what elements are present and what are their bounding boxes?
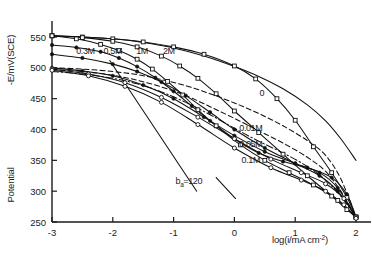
marker-filled-circle xyxy=(50,53,53,56)
curve-0.1M xyxy=(52,72,356,218)
marker-open-square xyxy=(166,80,170,84)
marker-open-circle xyxy=(232,137,236,141)
x-axis-title-close: ) xyxy=(325,234,328,245)
marker-open-square xyxy=(305,174,309,178)
marker-open-square xyxy=(275,97,279,101)
marker-open-square xyxy=(50,34,54,38)
marker-open-circle xyxy=(50,68,54,72)
marker-filled-circle xyxy=(330,176,333,179)
marker-open-square xyxy=(330,194,334,198)
marker-open-circle xyxy=(342,197,346,201)
marker-open-square xyxy=(74,37,78,41)
marker-filled-circle xyxy=(154,76,157,79)
curve-label-0.01M: 0.01M xyxy=(239,123,262,133)
marker-filled-circle xyxy=(294,162,297,165)
marker-open-circle xyxy=(324,189,328,193)
marker-open-square xyxy=(214,92,218,96)
marker-open-square xyxy=(287,171,291,175)
marker-filled-circle xyxy=(50,43,53,46)
curve-lines xyxy=(52,36,356,219)
marker-open-circle xyxy=(159,100,163,104)
curve-label-1M: 1M xyxy=(136,46,148,56)
curve-0.5M xyxy=(52,36,356,217)
curve-label-2M: 2M xyxy=(163,46,175,56)
marker-filled-circle xyxy=(142,83,145,86)
marker-open-square xyxy=(312,183,316,187)
marker-filled-circle xyxy=(172,90,175,93)
y-tick-label: 250 xyxy=(30,217,46,228)
marker-open-circle xyxy=(159,95,163,99)
marker-open-circle xyxy=(269,166,273,170)
marker-open-circle xyxy=(342,203,346,207)
marker-filled-circle xyxy=(135,70,138,73)
curve-0.01M xyxy=(52,68,356,217)
y-tick-label: 350 xyxy=(30,155,46,166)
y-axis-title-secondary: Potential xyxy=(5,167,16,202)
curve-label-0.3M: 0.3M xyxy=(76,46,94,56)
marker-open-circle xyxy=(354,216,358,220)
marker-open-circle xyxy=(123,84,127,88)
marker-filled-circle xyxy=(172,97,175,100)
y-tick-label: 300 xyxy=(30,186,46,197)
marker-open-circle xyxy=(299,178,303,182)
marker-filled-circle xyxy=(318,171,321,174)
marker-filled-circle xyxy=(257,151,260,154)
annotation-rest: =120 xyxy=(183,176,202,186)
x-tick-label: 0 xyxy=(232,227,237,238)
marker-open-circle xyxy=(196,115,200,119)
marker-filled-circle xyxy=(233,128,236,131)
curve-baseline-0.1M-lower xyxy=(52,54,356,217)
marker-open-circle xyxy=(299,171,303,175)
marker-open-square xyxy=(202,52,206,56)
marker-filled-circle xyxy=(263,146,266,149)
marker-open-square xyxy=(312,145,316,149)
y-tick-label: 400 xyxy=(30,124,46,135)
x-axis-title: log(i/mA cm-2) xyxy=(272,234,328,246)
marker-filled-circle xyxy=(336,186,339,189)
marker-filled-circle xyxy=(111,74,114,77)
marker-filled-circle xyxy=(208,111,211,114)
marker-open-square xyxy=(254,77,258,81)
marker-open-square xyxy=(135,57,139,61)
figure-container: 2M1M0.5M0.3M0.1M0.05M0.01M0ba=120 -3-2-1… xyxy=(0,0,372,258)
curve-label-0: 0 xyxy=(259,88,264,98)
marker-open-circle xyxy=(324,182,328,186)
curve-label-0.1M: 0.1M xyxy=(242,155,260,165)
marker-open-square xyxy=(214,124,218,128)
marker-open-square xyxy=(99,43,103,47)
polarization-curve-chart: 2M1M0.5M0.3M0.1M0.05M0.01M0ba=120 -3-2-1… xyxy=(0,0,372,258)
marker-filled-circle xyxy=(306,166,309,169)
marker-filled-circle xyxy=(190,104,193,107)
marker-open-square xyxy=(81,36,85,40)
marker-open-square xyxy=(330,171,334,175)
marker-open-circle xyxy=(196,123,200,127)
marker-open-square xyxy=(293,118,297,122)
x-tick-label: -1 xyxy=(169,227,177,238)
marker-filled-circle xyxy=(263,150,266,153)
curve-tafel-line-short xyxy=(216,178,235,199)
marker-filled-circle xyxy=(99,50,102,53)
marker-filled-circle xyxy=(117,56,120,59)
marker-open-circle xyxy=(269,157,273,161)
marker-filled-circle xyxy=(81,56,84,59)
marker-open-circle xyxy=(232,146,236,150)
marker-open-square xyxy=(233,64,237,68)
marker-filled-circle xyxy=(208,119,211,122)
y-tick-label: 550 xyxy=(30,32,46,43)
y-tick-label: 500 xyxy=(30,62,46,73)
curve-lower-branch-c xyxy=(52,70,356,218)
curve-tafel-line xyxy=(110,60,197,191)
x-axis-title-main: log(i/mA cm xyxy=(272,234,320,245)
marker-open-square xyxy=(141,40,145,44)
marker-filled-circle xyxy=(281,160,284,163)
x-tick-label: -3 xyxy=(48,227,56,238)
marker-filled-circle xyxy=(345,193,348,196)
y-tick-label: 450 xyxy=(30,93,46,104)
marker-open-square xyxy=(178,64,182,68)
marker-open-square xyxy=(345,208,349,212)
marker-open-square xyxy=(233,109,237,113)
curve-1M xyxy=(52,36,356,217)
x-tick-label: -2 xyxy=(109,227,117,238)
marker-open-square xyxy=(336,199,340,203)
marker-open-square xyxy=(196,108,200,112)
